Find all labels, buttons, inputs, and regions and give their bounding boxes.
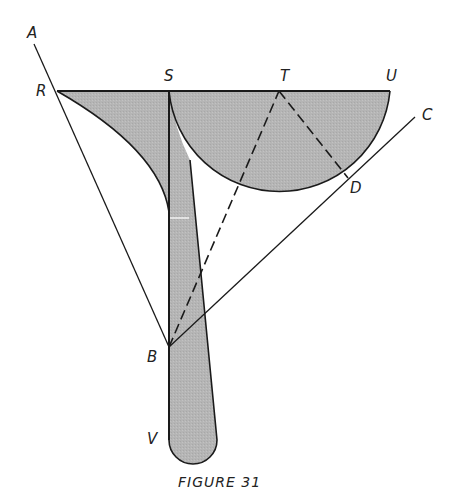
- label-B: B: [147, 350, 157, 365]
- label-D: D: [350, 181, 362, 196]
- figure-caption: FIGURE 31: [178, 474, 261, 490]
- line-AB: [34, 44, 169, 347]
- label-R: R: [36, 84, 46, 99]
- label-C: C: [422, 108, 432, 123]
- label-V: V: [147, 432, 157, 447]
- semicircle-region: [169, 91, 390, 191]
- label-U: U: [386, 69, 397, 84]
- label-A: A: [27, 26, 37, 41]
- label-S: S: [164, 69, 174, 84]
- label-T: T: [280, 69, 289, 84]
- left-cusp-region: [57, 91, 169, 212]
